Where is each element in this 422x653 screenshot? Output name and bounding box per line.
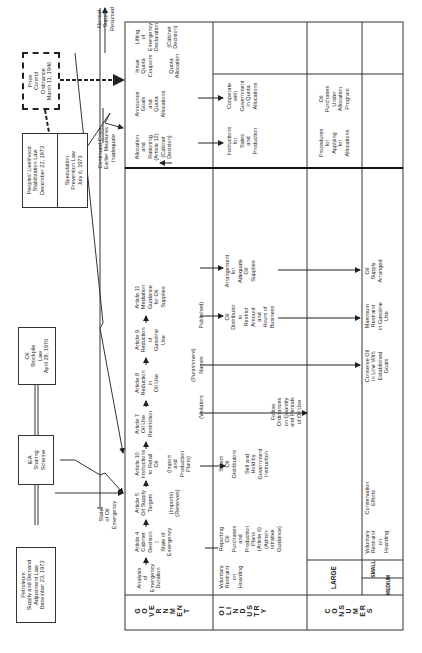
names-label: Names: [198, 352, 204, 378]
article4-cabinet-decision: Article 4 Cabinet Decision | State of Em…: [134, 526, 172, 558]
announce-goals: Announce Goals and Quota Allocations: [134, 85, 166, 123]
continued-crisis-label: Continued Crisis Earlier Measures Inadeq…: [97, 113, 116, 183]
large-label: LARGE: [330, 560, 337, 595]
small-label: SMALL: [370, 560, 376, 578]
law-divider: [57, 133, 58, 208]
article5-note: (Imports) (Reserves): [168, 486, 181, 520]
arrangement-adequate-supplies: Arrangement for Adequate Oil Supplies: [224, 249, 256, 293]
reporting-oil-purchases: Reporting Oil Purchases and Production P…: [218, 519, 282, 559]
violators-label: (Violators: [198, 389, 204, 425]
row-label-oil-industry: O I L I N D U S T R Y: [218, 605, 267, 617]
conserve-oil-goals: Conserve Oil in Line With Established Go…: [364, 341, 390, 391]
sell-and-hold: Sell and Hold by Government Instruction: [244, 445, 270, 483]
issue-quota-coupons: Issue Quota Coupons: [134, 49, 153, 83]
article9-reduction-gasoline: Article 9 Reduction of Gasoline Use: [134, 322, 166, 358]
article10-instructions: Article 10 Instructions to Retail Oil: [134, 447, 160, 481]
article5-oil-supply-targets: Article 5 Oil Supply Targets: [134, 486, 153, 520]
article7-oil-use-restriction: Article 7 Oil Use Restriction: [134, 406, 153, 442]
instructions-sales-production: Instructions for Sales and Production: [226, 121, 258, 161]
row-label-consumers: C O N S U M E R S: [324, 605, 373, 617]
allocation-rationing: Allocation and Rationing (Article 12) (C…: [134, 128, 172, 166]
cooperate-government: Cooperate with Government in Quota Alloc…: [226, 76, 258, 116]
article10-note: (Import and Production Plans): [166, 447, 192, 481]
article11-mediation: Article 11 Mediation Guidance for Oil Su…: [134, 278, 166, 316]
oil-distributor-restrict: Oil Distributor to Restrict Amount and H…: [224, 297, 275, 337]
petroleum-law-text: Petroleum Supply and Demand Adjustment L…: [20, 547, 46, 623]
published-label: Published): [198, 297, 204, 333]
oil-purchases-allocation: Oil Purchases Under Allocation Program: [318, 77, 350, 121]
conservation-efforts: Conservation Efforts: [364, 473, 377, 523]
lifting-cabinet-decision: (Cabinet Decision): [166, 21, 179, 53]
medium-label: MEDIUM: [385, 577, 391, 595]
analysis-emergency: Analysis of Emergency Duration: [136, 563, 162, 593]
select-oil-distributors: Select Oil Distributors: [218, 445, 237, 483]
oil-emergency-flow-diagram: Petroleum Supply and Demand Adjustment L…: [0, 0, 422, 653]
speculation-law-text: Speculation Prevention Law July 6, 1973: [64, 133, 83, 208]
follow-ordinances: Follow Ordinances on Quantity and Period…: [270, 391, 302, 433]
stockpile-law-text: Oil Stockpile Law April 28, 1976: [24, 327, 50, 385]
consumer-voluntary-restraint: Voluntary Restraint on Hoarding: [364, 525, 390, 559]
maximum-restraint-gasoline: Maximum Restraint in Gasoline Use: [364, 293, 390, 339]
state-of-oil-emergency-label: State of Oil Emergency: [98, 495, 117, 535]
procedures-applying: Procedures for Applying for Allocations: [318, 123, 350, 163]
row-label-government: G O V E R N M E N T: [134, 605, 190, 617]
diagram-lines: [0, 0, 422, 653]
iea-text: IEA Sharing Scheme: [27, 435, 46, 485]
normal-supply-label: Normal Supply Resumed: [96, 0, 115, 38]
price-control-text: Price Control Ordinance March 11, 1946: [27, 52, 53, 110]
punishment-label: (Punishment): [190, 345, 196, 385]
peoples-livelihood-text: Peoples' Livelihood Stabilization Law De…: [26, 133, 45, 208]
lifting-emergency: Lifting of Emergency Declaration: [134, 21, 160, 53]
oil-supply-arranged: Oil Supply Arranged: [364, 253, 383, 289]
article8-reduction-oil-use: Article 8 Reduction in Oil Use: [134, 365, 160, 401]
quota-allocation: Quota Allocation: [168, 49, 181, 83]
oil-voluntary-restraint: Voluntary Restraint on Hoarding: [218, 561, 244, 593]
